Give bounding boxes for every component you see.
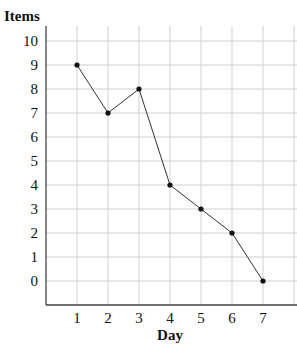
line-chart: 012345678910 1234567 Items Day	[0, 0, 297, 346]
x-tick-labels: 1234567	[73, 310, 267, 326]
y-tick-label: 10	[23, 33, 38, 49]
data-point	[260, 278, 265, 283]
data-point	[229, 230, 234, 235]
y-axis-label: Items	[4, 8, 40, 24]
y-tick-label: 6	[31, 129, 39, 145]
x-tick-label: 4	[166, 310, 174, 326]
y-tick-label: 8	[31, 81, 39, 97]
y-tick-label: 4	[31, 177, 39, 193]
data-point	[105, 110, 110, 115]
data-point	[136, 86, 141, 91]
x-axis-label: Day	[157, 327, 183, 343]
grid-lines	[46, 26, 297, 305]
x-tick-label: 7	[259, 310, 267, 326]
x-tick-label: 3	[135, 310, 143, 326]
x-tick-label: 2	[104, 310, 112, 326]
x-tick-label: 1	[73, 310, 81, 326]
data-point	[74, 62, 79, 67]
y-tick-label: 5	[31, 153, 39, 169]
axes	[46, 26, 297, 305]
y-tick-labels: 012345678910	[23, 33, 39, 289]
data-point	[198, 206, 203, 211]
y-tick-label: 7	[31, 105, 39, 121]
y-tick-label: 9	[31, 57, 39, 73]
y-tick-label: 1	[31, 249, 39, 265]
data-point	[167, 182, 172, 187]
y-tick-label: 2	[31, 225, 39, 241]
x-tick-label: 6	[228, 310, 236, 326]
y-tick-label: 0	[31, 273, 39, 289]
y-tick-label: 3	[31, 201, 39, 217]
x-tick-label: 5	[197, 310, 205, 326]
